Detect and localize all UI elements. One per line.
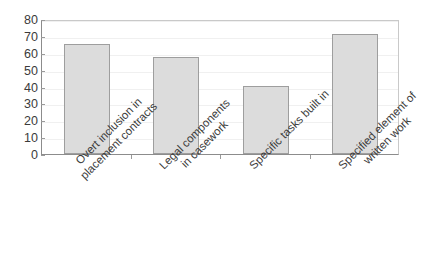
x-tick-mark bbox=[220, 155, 221, 159]
x-tick-mark bbox=[131, 155, 132, 159]
y-tick-mark bbox=[41, 88, 45, 89]
y-tick-mark bbox=[41, 121, 45, 122]
y-tick-mark bbox=[41, 155, 45, 156]
y-tick-label: 10 bbox=[4, 132, 38, 144]
y-tick-label: 70 bbox=[4, 31, 38, 43]
y-tick-mark bbox=[41, 20, 45, 21]
y-axis: 01020304050607080 bbox=[0, 20, 38, 155]
y-tick-label: 20 bbox=[4, 115, 38, 127]
y-tick-mark bbox=[41, 37, 45, 38]
y-tick-mark bbox=[41, 71, 45, 72]
y-tick-label: 40 bbox=[4, 82, 38, 94]
x-axis-labels: Overt inclusion inplacement contractsLeg… bbox=[0, 155, 407, 262]
y-tick-mark bbox=[41, 54, 45, 55]
y-tick-label: 30 bbox=[4, 98, 38, 110]
y-tick-mark bbox=[41, 104, 45, 105]
y-tick-label: 50 bbox=[4, 65, 38, 77]
y-tick-label: 60 bbox=[4, 48, 38, 60]
y-tick-label: 80 bbox=[4, 14, 38, 26]
gridline bbox=[42, 21, 398, 22]
y-tick-mark bbox=[41, 138, 45, 139]
x-tick-mark bbox=[310, 155, 311, 159]
